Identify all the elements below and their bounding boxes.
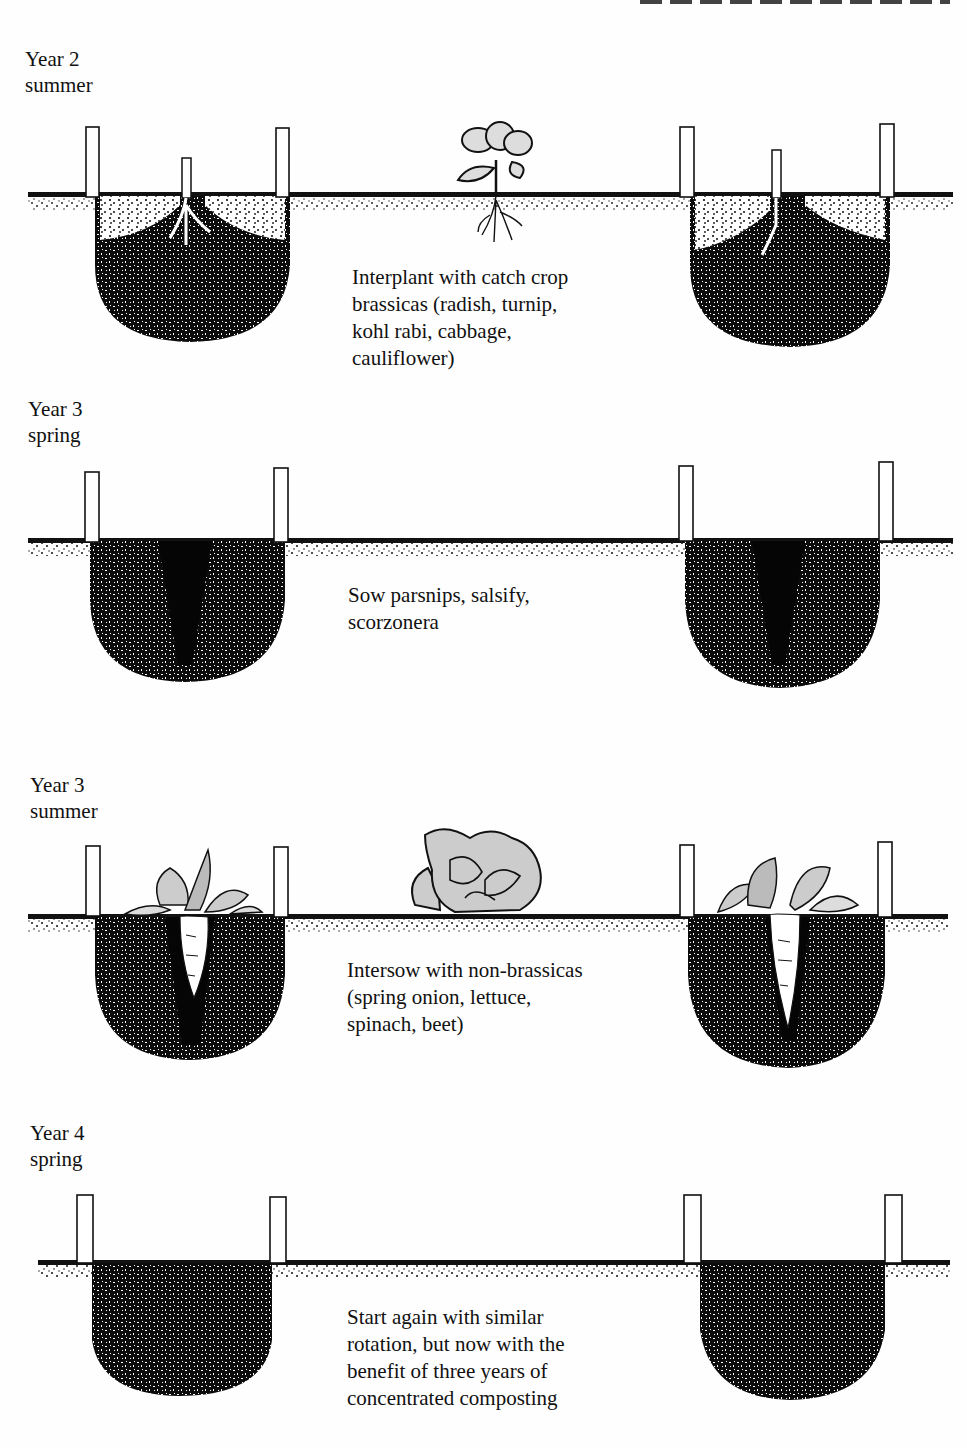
stake	[684, 1195, 701, 1263]
caption-year2-summer: Interplant with catch crop brassicas (ra…	[352, 264, 568, 372]
right-compost-pit	[688, 858, 885, 1068]
diagram-page: Year 2 summer Interplant with catch crop…	[0, 0, 967, 1448]
parsnip-leaves-icon	[125, 850, 262, 915]
stake	[680, 127, 694, 197]
season-text: summer	[25, 72, 93, 98]
stake	[679, 466, 693, 541]
stake	[85, 472, 99, 542]
lettuce-icon	[412, 829, 541, 912]
caption-year4-spring: Start again with similar rotation, but n…	[347, 1304, 565, 1412]
season-text: summer	[30, 798, 98, 824]
stake	[878, 842, 892, 917]
year-label-year3-summer: Year 3 summer	[30, 772, 98, 824]
season-text: spring	[30, 1146, 84, 1172]
right-compost-pit	[700, 1263, 885, 1400]
stake	[274, 468, 288, 542]
stake	[276, 128, 289, 197]
stake	[86, 846, 100, 916]
left-compost-pit	[95, 850, 285, 1060]
right-compost-pit	[690, 150, 890, 347]
stake	[86, 127, 99, 197]
caption-year3-spring: Sow parsnips, salsify, scorzonera	[348, 582, 530, 636]
stake	[885, 1195, 902, 1263]
year-label-year2-summer: Year 2 summer	[25, 46, 93, 98]
stake	[880, 124, 894, 197]
left-compost-pit	[95, 158, 290, 342]
stake	[77, 1195, 93, 1263]
year-text: Year 3	[28, 396, 82, 422]
year-text: Year 3	[30, 772, 98, 798]
season-text: spring	[28, 422, 82, 448]
stake	[270, 1197, 286, 1263]
year-label-year4-spring: Year 4 spring	[30, 1120, 84, 1172]
stake	[879, 462, 893, 541]
year-text: Year 2	[25, 46, 93, 72]
stake	[680, 845, 694, 917]
caption-year3-summer: Intersow with non-brassicas (spring onio…	[347, 957, 583, 1038]
year-text: Year 4	[30, 1120, 84, 1146]
parsnip-leaves-icon	[718, 858, 858, 912]
stake	[274, 847, 288, 917]
panel-year3-spring-art	[28, 462, 953, 688]
left-compost-pit	[90, 541, 285, 682]
right-compost-pit	[685, 541, 880, 688]
diagram-illustration	[0, 0, 967, 1448]
brassica-seedling-icon	[458, 122, 532, 242]
year-label-year3-spring: Year 3 spring	[28, 396, 82, 448]
left-compost-pit	[92, 1263, 272, 1396]
